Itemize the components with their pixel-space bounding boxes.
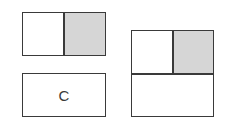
- bottom-left-box: C: [22, 73, 106, 117]
- right-box-top-left-cell: [132, 31, 172, 73]
- right-box-horizontal-divider: [132, 73, 213, 75]
- box-label-c: C: [23, 74, 105, 116]
- right-box-top-right-cell-shaded: [173, 31, 213, 73]
- right-combined-box: [131, 30, 214, 117]
- top-left-box-right-cell-shaded: [64, 13, 105, 55]
- top-left-box: [22, 12, 106, 56]
- top-left-box-divider: [63, 13, 65, 55]
- right-box-vertical-divider: [172, 31, 174, 74]
- top-left-box-left-cell: [23, 13, 63, 55]
- right-box-bottom-cell: [132, 74, 213, 116]
